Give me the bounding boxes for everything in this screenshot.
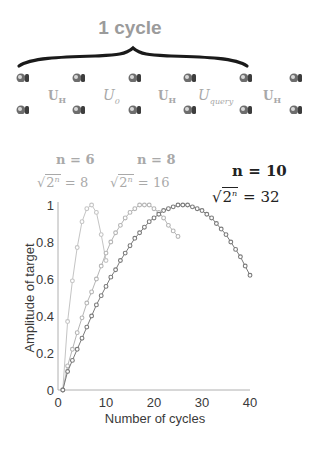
- data-point: [80, 316, 84, 320]
- data-point: [90, 203, 94, 207]
- data-point: [128, 244, 132, 248]
- x-tick-label: 40: [243, 395, 257, 410]
- data-point: [109, 275, 113, 279]
- data-point: [138, 203, 142, 207]
- data-point: [95, 277, 99, 281]
- y-tick-label: 0.8: [36, 235, 54, 250]
- data-point: [71, 279, 75, 283]
- data-point: [90, 314, 94, 318]
- data-point: [138, 231, 142, 235]
- data-point: [95, 303, 99, 307]
- data-point: [162, 209, 166, 213]
- data-point: [119, 223, 123, 227]
- data-point: [128, 211, 132, 215]
- data-point: [104, 259, 108, 263]
- data-point: [123, 251, 127, 255]
- data-point: [248, 273, 252, 277]
- x-tick-label: 20: [147, 395, 161, 410]
- data-point: [171, 205, 175, 209]
- data-point: [99, 264, 103, 268]
- data-point: [181, 203, 185, 207]
- data-point: [66, 370, 70, 374]
- data-point: [210, 216, 214, 220]
- data-point: [71, 347, 75, 351]
- data-point: [119, 259, 123, 263]
- x-tick-label: 10: [99, 395, 113, 410]
- data-point: [167, 207, 171, 211]
- data-point: [114, 268, 118, 272]
- data-point: [143, 225, 147, 229]
- amplitude-chart: 01020304000.20.40.60.81 Amplitude of tar…: [0, 0, 319, 452]
- y-tick-label: 1: [47, 198, 54, 213]
- data-point: [224, 233, 228, 237]
- data-point: [147, 203, 151, 207]
- data-point: [66, 320, 70, 324]
- y-tick-label: 0: [47, 383, 54, 398]
- data-point: [152, 216, 156, 220]
- y-axis-label: Amplitude of target: [22, 243, 37, 353]
- data-point: [99, 233, 103, 237]
- data-point: [191, 205, 195, 209]
- data-point: [195, 207, 199, 211]
- data-point: [133, 207, 137, 211]
- data-point: [104, 251, 108, 255]
- x-tick-label: 0: [54, 395, 61, 410]
- data-point: [167, 223, 171, 227]
- data-point: [200, 209, 204, 213]
- data-point: [85, 301, 89, 305]
- data-point: [186, 203, 190, 207]
- data-point: [61, 388, 65, 392]
- chart-axes: 01020304000.20.40.60.81: [36, 198, 257, 410]
- data-point: [171, 229, 175, 233]
- y-tick-label: 0.2: [36, 346, 54, 361]
- data-point: [219, 227, 223, 231]
- data-point: [152, 207, 156, 211]
- data-point: [90, 290, 94, 294]
- data-point: [162, 216, 166, 220]
- x-tick-label: 30: [195, 395, 209, 410]
- data-point: [85, 325, 89, 329]
- data-point: [80, 336, 84, 340]
- data-point: [104, 285, 108, 289]
- data-point: [99, 294, 103, 298]
- data-point: [176, 203, 180, 207]
- data-point: [80, 220, 84, 224]
- y-tick-label: 0.4: [36, 309, 54, 324]
- data-point: [215, 222, 219, 226]
- data-point: [239, 255, 243, 259]
- data-point: [229, 240, 233, 244]
- data-point: [234, 248, 238, 252]
- data-point: [243, 264, 247, 268]
- data-point: [176, 235, 180, 239]
- data-point: [143, 203, 147, 207]
- data-point: [75, 347, 79, 351]
- data-point: [75, 331, 79, 335]
- data-point: [123, 216, 127, 220]
- data-point: [95, 211, 99, 215]
- data-point: [133, 236, 137, 240]
- data-point: [75, 246, 79, 250]
- data-point: [109, 240, 113, 244]
- data-point: [114, 231, 118, 235]
- data-point: [71, 359, 75, 363]
- data-point: [85, 207, 89, 211]
- data-point: [205, 212, 209, 216]
- series-line-0: [63, 205, 106, 390]
- x-axis-label: Number of cycles: [105, 411, 206, 426]
- y-tick-label: 0.6: [36, 272, 54, 287]
- data-point: [157, 212, 161, 216]
- chart-series: [61, 203, 252, 392]
- data-point: [147, 220, 151, 224]
- series-line-2: [63, 205, 250, 390]
